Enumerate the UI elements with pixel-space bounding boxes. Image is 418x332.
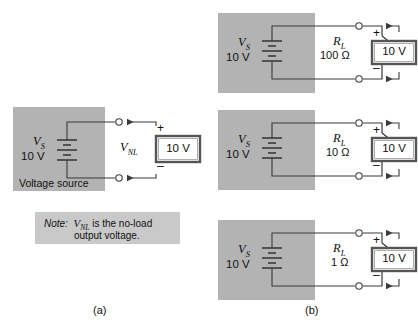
meter-plus-sign-a: + (157, 122, 164, 135)
note-line-2: output voltage. (74, 229, 140, 242)
caption-a: (a) (93, 305, 106, 317)
meter-minus-sign-b3: – (373, 269, 380, 282)
terminal-top-b2 (356, 120, 362, 126)
meter-minus-sign-b2: – (373, 159, 380, 172)
meter-reading-b1: 10 V (372, 45, 416, 57)
terminal-top-a (116, 119, 122, 125)
terminal-top-b1 (356, 23, 362, 29)
circuit-drawing (0, 0, 418, 332)
meter-minus-sign-b1: – (373, 62, 380, 75)
meter-plus-sign-b1: + (373, 27, 380, 40)
caption-b: (b) (305, 305, 318, 317)
meter-reading-a: 10 V (156, 142, 200, 154)
source-value-b2: 10 V (226, 148, 250, 160)
terminal-top-b3 (356, 230, 362, 236)
terminal-bottom-a (116, 175, 122, 181)
meter-reading-b2: 10 V (372, 142, 416, 154)
source-value-b1: 10 V (226, 51, 250, 63)
load-value-b1: 100 Ω (320, 50, 350, 62)
figure-root: VS 10 V Voltage source VNL 10 V + – Note… (0, 0, 418, 332)
terminal-bottom-b1 (356, 76, 362, 82)
source-symbol-b2: VS (238, 133, 250, 148)
terminal-bottom-b2 (356, 173, 362, 179)
meter-plus-sign-b3: + (373, 234, 380, 247)
source-value-b3: 10 V (226, 258, 250, 270)
load-value-b3: 1 Ω (331, 257, 348, 269)
source-symbol-b3: VS (238, 243, 250, 258)
load-value-b2: 10 Ω (326, 147, 350, 159)
no-load-voltage-label: VNL (120, 141, 137, 157)
meter-minus-sign-a: – (157, 160, 164, 173)
meter-plus-sign-b2: + (373, 124, 380, 137)
terminal-bottom-b3 (356, 283, 362, 289)
meter-reading-b3: 10 V (372, 252, 416, 264)
source-value-a: 10 V (21, 150, 45, 162)
panel-a-label: Voltage source (19, 178, 88, 189)
source-symbol-b1: VS (238, 36, 250, 51)
source-symbol-a: VS (33, 135, 45, 150)
